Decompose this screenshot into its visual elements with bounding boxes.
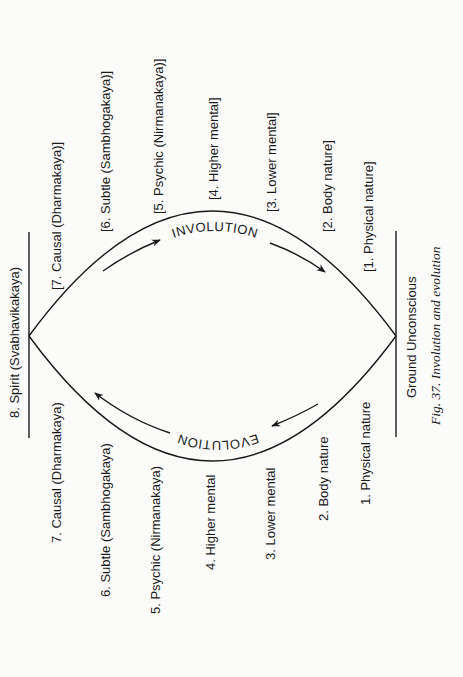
involution-level-6: [6. Subtle (Sambhogakaya)] [99, 71, 112, 232]
diagram-canvas: INVOLUTION EVOLUTION [0, 0, 463, 677]
evolution-level-3: 3. Lower mental [264, 468, 277, 561]
evolution-arrow-left [95, 393, 170, 433]
involution-level-1: [1. Physical nature] [362, 161, 375, 272]
figure-caption: Fig. 37. Involution and evolution [429, 247, 443, 425]
involution-level-2: [2. Body nature] [321, 140, 334, 232]
evolution-level-4: 4. Higher mental [204, 475, 217, 570]
spirit-label: 8. Spirit (Svabhavikakaya) [8, 267, 21, 418]
evolution-label: EVOLUTION [175, 431, 260, 453]
involution-level-3: [3. Lower mental] [265, 112, 278, 212]
involution-label: INVOLUTION [170, 219, 260, 241]
evolution-level-1: 1. Physical nature [359, 402, 372, 505]
evolution-level-5: 5. Psychic (Nirmanakaya) [149, 466, 162, 614]
evolution-level-7: 7. Causal (Dharmakaya) [50, 402, 63, 543]
involution-arrow-left [103, 240, 160, 271]
involution-level-5: [5. Psychic (Nirmanakaya)] [152, 59, 165, 214]
evolution-arrow-right [272, 404, 318, 426]
evolution-level-6: 6. Subtle (Sambhogakaya) [99, 443, 112, 597]
ground-unconscious-label: Ground Unconscious [405, 277, 418, 398]
involution-level-7: [7. Causal (Dharmakaya)] [50, 142, 63, 290]
involution-arrow-right [270, 243, 325, 272]
evolution-level-2: 2. Body nature [317, 436, 330, 521]
involution-level-4: [4. Higher mental] [207, 97, 220, 200]
